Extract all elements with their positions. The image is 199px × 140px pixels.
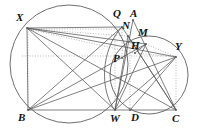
point-marker-w: [114, 109, 116, 111]
point-label-p: P: [113, 53, 120, 64]
point-label-w: W: [110, 113, 120, 124]
point-marker-b: [27, 109, 29, 111]
point-marker-x: [26, 27, 28, 29]
arc-w-q: [105, 27, 122, 110]
point-label-n: N: [122, 20, 130, 31]
geometry-figure: XQANMHYPBWDC: [0, 0, 199, 140]
point-marker-a: [132, 19, 134, 21]
point-marker-h: [134, 52, 136, 54]
point-label-m: M: [138, 27, 148, 38]
arcs-group: [105, 27, 122, 110]
point-label-h: H: [131, 40, 140, 51]
point-marker-c: [175, 109, 177, 111]
dot-M-Y: [146, 44, 176, 57]
seg-B-Y: [28, 57, 176, 110]
point-label-y: Y: [175, 41, 182, 52]
seg-X-Y: [27, 28, 176, 57]
point-label-b: B: [18, 112, 25, 123]
point-label-c: C: [172, 113, 179, 124]
point-label-q: Q: [113, 8, 121, 19]
point-label-d: D: [131, 112, 139, 123]
seg-X-Q: [27, 27, 122, 28]
seg-B-M: [28, 44, 146, 110]
point-label-a: A: [130, 8, 137, 19]
solid-lines-group: [27, 20, 176, 110]
point-marker-n: [127, 35, 129, 37]
point-marker-p: [121, 57, 123, 59]
point-label-x: X: [16, 12, 23, 23]
point-marker-m: [145, 43, 147, 45]
point-marker-y: [175, 56, 177, 58]
geometry-canvas: [0, 0, 199, 140]
